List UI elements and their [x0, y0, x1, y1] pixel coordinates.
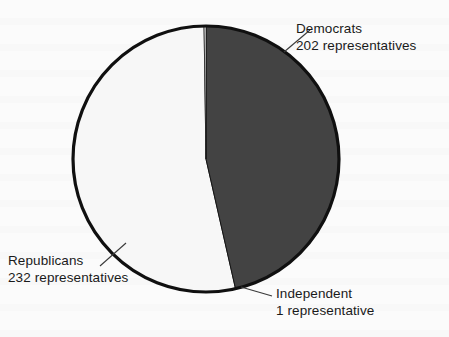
leader-line-independent — [241, 287, 272, 296]
slice-label-republicans-count: 232 representatives — [8, 269, 128, 286]
pie-chart: Democrats 202 representatives Republican… — [0, 0, 449, 337]
slice-label-independent-count: 1 representative — [276, 302, 374, 319]
slice-label-independent: Independent 1 representative — [276, 285, 374, 320]
slice-label-republicans: Republicans 232 representatives — [8, 252, 128, 287]
slice-label-democrats-name: Democrats — [296, 20, 416, 37]
slice-label-independent-name: Independent — [276, 285, 374, 302]
slice-label-democrats-count: 202 representatives — [296, 37, 416, 54]
slice-label-democrats: Democrats 202 representatives — [296, 20, 416, 55]
slice-label-republicans-name: Republicans — [8, 252, 128, 269]
